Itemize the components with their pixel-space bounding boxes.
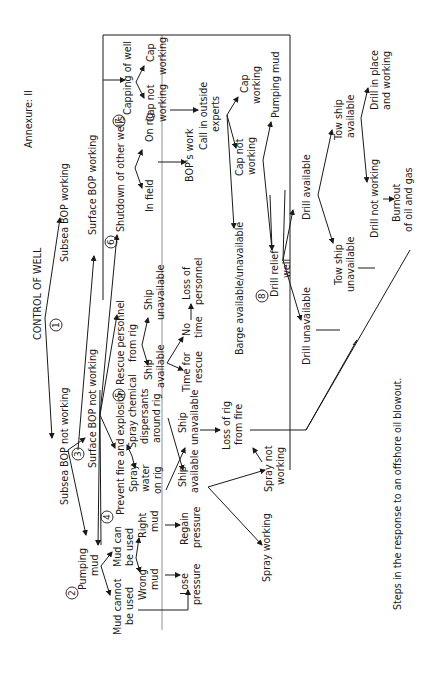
node-drill-available: Drill available <box>301 154 312 220</box>
svg-text:7: 7 <box>114 118 124 124</box>
node-cap-working-b: Cap <box>239 74 250 93</box>
node-loss-of-personnel-2: personnel <box>193 257 204 305</box>
node-cap-not-working-a-2: working <box>157 84 168 122</box>
node-cap-not-working-b: Cap not <box>234 138 245 176</box>
node-mud-cannot-be-used-2: be used <box>124 587 135 625</box>
node-drill-relief-well: Drill relief <box>269 250 280 297</box>
node-surface-bop-working: Surface BOP working <box>87 135 98 235</box>
figure-caption: Steps in the response to an offshore oil… <box>392 378 403 610</box>
node-cap-working-b-2: working <box>251 66 262 104</box>
node-tow-ship-available-2: available <box>345 95 356 138</box>
node-mud-cannot-be-used: Mud cannot <box>112 578 123 635</box>
node-prevent-fire: Prevent fire and explosion <box>115 390 126 515</box>
blowout-response-flowchart: Annexure: II Steps in the response to an… <box>0 0 445 677</box>
node-spray-chemical: Spray chemical <box>127 374 138 448</box>
node-regain-pressure: Regain <box>179 512 190 545</box>
node-spray-water-3: on rig <box>152 466 163 494</box>
node-rescue-personnel: Rescue personnel <box>115 300 126 385</box>
node-call-outside-experts-2: experts <box>210 96 221 132</box>
node-spray-chemical-2: dispersants <box>139 389 150 444</box>
node-lose-pressure-2: pressure <box>191 563 202 605</box>
node-pumping-mud: Pumping <box>77 548 88 590</box>
node-drill-relief-well-2: well <box>281 259 292 278</box>
node-time-for-rescue-2: rescue <box>193 351 204 383</box>
node-ship-available-b-2: available <box>155 345 166 388</box>
node-wrong-mud-2: mud <box>149 568 160 590</box>
node-spray-working: Spray working <box>261 513 272 582</box>
node-call-outside-experts: Call in outside <box>198 82 209 150</box>
node-wrong-mud: Wrong <box>137 569 148 600</box>
node-cap-working-a-2: working <box>157 37 168 75</box>
node-spray-chemical-3: around rig <box>151 394 162 443</box>
node-loss-of-rig: Loss of rig <box>221 401 232 450</box>
node-loss-of-rig-2: from fire <box>233 404 244 445</box>
node-pumping-mud-b: Pumping mud <box>270 51 281 118</box>
node-drill-in-place-2: and working <box>381 51 392 110</box>
svg-text:5: 5 <box>114 392 124 398</box>
node-right-mud: Right <box>137 512 148 538</box>
node-spray-water-2: water <box>140 465 151 492</box>
node-spray-not-working: Spray not <box>263 445 274 492</box>
node-shutdown-other-wells: Shutdown of other wells <box>115 116 126 232</box>
svg-text:8: 8 <box>257 293 267 299</box>
node-cap-working-a: Cap <box>145 43 156 62</box>
node-subsea-bop-working: Subsea BOP working <box>59 163 70 262</box>
node-ship-unavailable-a-2: unavailable <box>189 389 200 445</box>
node-no-time-2: time <box>193 316 204 338</box>
node-control-of-well: CONTROL OF WELL <box>32 247 43 340</box>
node-spray-water: Spray <box>128 464 139 492</box>
node-right-mud-2: mud <box>149 510 160 532</box>
node-bops-work: BOP's work <box>184 128 195 182</box>
node-in-field: In field <box>144 179 155 212</box>
node-mud-can-be-used-2: be used <box>124 528 135 566</box>
node-mud-can-be-used: Mud can <box>112 526 123 567</box>
node-subsea-bop-not-working: Subsea BOP not working <box>59 387 70 505</box>
node-time-for-rescue: Time for <box>181 352 192 393</box>
node-surface-bop-not-working: Surface BOP not working <box>87 349 98 468</box>
annexure-label: Annexure: II <box>23 90 34 148</box>
node-ship-available-a: Ship <box>177 466 188 487</box>
node-tow-ship-unavailable: Tow ship <box>333 244 344 286</box>
step-4: 4 <box>101 511 113 523</box>
node-no-time: No <box>181 323 192 336</box>
node-ship-unavailable-a: Ship <box>177 412 188 433</box>
node-loss-of-personnel: Loss of <box>181 266 192 300</box>
node-drill-unavailable: Drill unavailable <box>301 287 312 365</box>
node-rescue-personnel-2: from rig <box>127 324 138 362</box>
step-6: 6 <box>105 236 117 248</box>
node-cap-not-working-a: Cap not <box>145 84 156 122</box>
node-ship-unavailable-b: Ship <box>143 289 154 310</box>
svg-text:2: 2 <box>67 590 77 596</box>
node-tow-ship-available: Tow ship <box>333 99 344 141</box>
step-8: 8 <box>256 290 268 302</box>
svg-text:4: 4 <box>102 514 112 520</box>
svg-text:3: 3 <box>73 451 83 457</box>
node-lose-pressure: Lose <box>179 573 190 595</box>
node-cap-not-working-b-2: working <box>246 137 257 175</box>
node-capping-of-well: Capping of well <box>122 41 133 115</box>
node-spray-not-working-2: working <box>275 447 286 485</box>
node-tow-ship-unavailable-2: unavailable <box>345 236 356 292</box>
node-ship-available-b: Ship <box>143 359 154 380</box>
svg-text:1: 1 <box>51 322 61 328</box>
node-regain-pressure-2: pressure <box>191 506 202 548</box>
node-burnout-2: of oil and gas <box>403 167 414 232</box>
node-ship-available-a-2: available <box>189 450 200 493</box>
node-pumping-mud-2: mud <box>89 554 100 576</box>
node-barge: Barge available/unavailable <box>234 222 245 355</box>
node-drill-not-working: Drill not working <box>369 159 380 238</box>
step-1: 1 <box>50 319 62 331</box>
svg-text:6: 6 <box>106 239 116 245</box>
node-burnout: Burnout <box>391 184 402 222</box>
node-ship-unavailable-b-2: unavailable <box>155 264 166 320</box>
node-drill-in-place: Drill in place <box>369 50 380 110</box>
